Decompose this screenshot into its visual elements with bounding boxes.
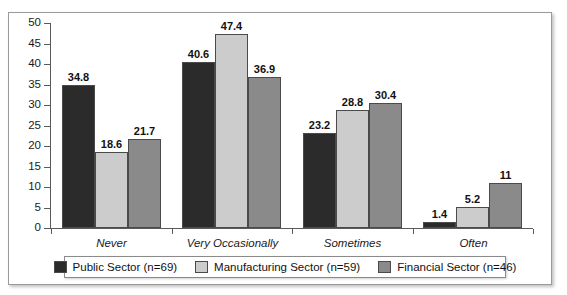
x-axis-tick [292,229,293,234]
bar [456,207,489,228]
y-axis-tick-label: 15 [11,161,41,172]
x-axis-tick [413,229,414,234]
bar [489,183,522,228]
y-axis-tick-label: 5 [11,202,41,213]
y-axis-tick [44,64,50,65]
legend-swatch-icon [54,261,67,273]
y-axis-tick [44,208,50,209]
bar [369,103,402,228]
y-axis-tick [44,85,50,86]
bar-value-label: 47.4 [207,20,256,32]
y-axis-tick-label: 0 [11,222,41,233]
y-axis-tick-label: 45 [11,38,41,49]
bar [95,152,128,228]
legend-label: Public Sector (n=69) [73,261,178,273]
legend-entry[interactable]: Financial Sector (n=46) [378,261,516,273]
y-axis-tick-label: 50 [11,17,41,28]
bar-value-label: 30.4 [361,89,410,101]
y-axis-tick [44,167,50,168]
y-axis-tick-label-wrap: 15 [9,161,41,172]
y-axis-tick [44,228,50,229]
legend-swatch-icon [195,261,208,273]
chart-figure-frame: 50454035302520151050 34.818.621.740.647.… [8,12,552,285]
bar-value-label: 11 [481,169,530,181]
bar-value-label: 34.8 [54,71,103,83]
y-axis-tick-label: 20 [11,140,41,151]
bar-value-label: 36.9 [240,63,289,75]
bar [423,222,456,228]
y-axis-tick-label-wrap: 5 [9,202,41,213]
y-axis-tick [44,187,50,188]
y-axis-tick-label-wrap: 25 [9,120,41,131]
bar [182,62,215,228]
y-axis-tick-label-wrap: 40 [9,58,41,69]
legend-label: Manufacturing Sector (n=59) [214,261,360,273]
bar [128,139,161,228]
x-axis-tick [51,229,52,234]
y-axis-tick-label-wrap: 20 [9,140,41,151]
chart-legend: Public Sector (n=69)Manufacturing Sector… [64,256,506,278]
y-axis-tick [44,146,50,147]
plot-area: 50454035302520151050 34.818.621.740.647.… [9,13,553,286]
x-axis-tick [533,229,534,234]
y-axis-line [50,23,51,229]
legend-label: Financial Sector (n=46) [397,261,516,273]
bar [248,77,281,228]
bar [303,133,336,228]
bar [336,110,369,228]
y-axis-tick-label-wrap: 0 [9,222,41,233]
bar-value-label: 21.7 [120,125,169,137]
y-axis-tick-label: 40 [11,58,41,69]
y-axis-tick-label: 10 [11,181,41,192]
y-axis-tick-label: 35 [11,79,41,90]
y-axis-tick-label-wrap: 35 [9,79,41,90]
x-axis-category-label: Never [51,237,172,249]
x-axis-category-label: Sometimes [292,237,413,249]
y-axis-tick-label-wrap: 50 [9,17,41,28]
x-axis-category-label: Often [413,237,534,249]
y-axis-tick-label: 25 [11,120,41,131]
legend-swatch-icon [378,261,391,273]
legend-entry[interactable]: Manufacturing Sector (n=59) [195,261,360,273]
y-axis-tick-label-wrap: 45 [9,38,41,49]
y-axis-tick-label: 30 [11,99,41,110]
legend-entry[interactable]: Public Sector (n=69) [54,261,178,273]
y-axis-tick [44,44,50,45]
y-axis-tick [44,105,50,106]
x-axis-tick [172,229,173,234]
y-axis-tick [44,23,50,24]
y-axis-tick [44,126,50,127]
x-axis-category-label: Very Occasionally [172,237,293,249]
y-axis-tick-label-wrap: 30 [9,99,41,110]
bar [62,85,95,228]
y-axis-tick-label-wrap: 10 [9,181,41,192]
